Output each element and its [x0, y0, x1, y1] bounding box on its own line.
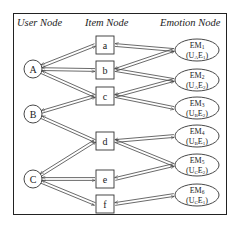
emotion-node-code: (UAE2): [186, 81, 208, 90]
user-node-A: A: [24, 60, 42, 78]
item-node-label: b: [103, 65, 108, 76]
item-node-label: e: [103, 174, 108, 185]
header-user-node: User Node: [17, 17, 63, 28]
header-item-node: Item Node: [84, 17, 129, 28]
edge-item-e-emotion-EM5-backward: [115, 164, 174, 178]
tripartite-graph: User Node Item Node Emotion Node ABCabcd…: [0, 0, 240, 234]
edge-item-c-emotion-EM3-forward: [115, 97, 174, 109]
item-node-label: d: [103, 136, 108, 147]
edge-user-A-item-c-forward: [41, 73, 95, 97]
emotion-node-EM2: EM2(UAE2): [175, 69, 219, 91]
edge-item-d-emotion-EM5-forward: [114, 142, 173, 166]
item-node-a: a: [96, 36, 114, 54]
item-node-label: a: [103, 40, 108, 51]
emotion-node-EM3: EM3(UBE2): [175, 97, 219, 119]
emotion-node-EM1: EM1(UAE1): [175, 39, 219, 61]
edge-user-C-item-f-forward: [41, 183, 94, 205]
emotion-node-code: (UBE2): [186, 109, 208, 118]
item-node-e: e: [96, 170, 114, 188]
edge-item-c-emotion-EM3-backward: [115, 95, 174, 107]
edge-item-d-emotion-EM4-forward: [115, 137, 174, 142]
nodes-layer: ABCabcdefEM1(UAE1)EM2(UAE2)EM3(UBE2)EM4(…: [24, 36, 219, 213]
emotion-node-code: (UCE2): [186, 166, 208, 175]
edge-user-B-item-c-forward: [42, 97, 95, 113]
edge-item-a-emotion-EM1-forward: [115, 46, 174, 51]
emotion-node-code: (UAE1): [186, 51, 208, 60]
user-node-B: B: [24, 105, 42, 123]
header-emotion-node: Emotion Node: [159, 17, 221, 28]
item-node-d: d: [96, 132, 114, 150]
emotion-node-EM6: EM6(UCE1): [175, 184, 219, 206]
user-node-C: C: [24, 170, 42, 188]
edge-user-B-item-d-forward: [41, 118, 95, 142]
edge-user-A-item-b-forward: [42, 71, 95, 72]
edge-item-a-emotion-EM1-backward: [115, 44, 174, 49]
edge-user-A-item-b-backward: [42, 68, 95, 69]
edge-item-b-emotion-EM2-backward: [115, 69, 174, 79]
edge-user-B-item-d-backward: [42, 116, 96, 140]
edge-item-b-emotion-EM2-forward: [115, 71, 174, 81]
edge-user-A-item-c-backward: [42, 71, 96, 95]
edge-item-b-emotion-EM1-backward: [115, 49, 174, 69]
emotion-node-EM4: EM4(UBE1): [175, 125, 219, 147]
edge-user-B-item-c-backward: [41, 95, 94, 111]
item-node-c: c: [96, 87, 114, 105]
edge-item-d-emotion-EM4-backward: [115, 135, 174, 140]
emotion-node-EM5: EM5(UCE2): [175, 154, 219, 176]
edge-item-c-emotion-EM2-forward: [115, 81, 174, 97]
user-node-label: B: [30, 109, 37, 120]
edge-item-b-emotion-EM1-forward: [115, 51, 174, 71]
user-node-label: A: [29, 64, 37, 75]
edge-user-A-item-a-backward: [41, 44, 94, 65]
edge-item-c-emotion-EM2-backward: [115, 79, 174, 95]
edge-user-C-item-f-backward: [42, 181, 95, 203]
item-node-f: f: [96, 195, 114, 213]
emotion-node-code: (UBE1): [186, 137, 208, 146]
edge-item-e-emotion-EM5-forward: [115, 166, 174, 180]
edge-user-A-item-a-forward: [42, 46, 95, 67]
item-node-b: b: [96, 61, 114, 79]
edge-user-C-item-d-forward: [42, 142, 96, 176]
emotion-node-code: (UCE1): [186, 196, 208, 205]
item-node-label: c: [103, 91, 108, 102]
edge-item-d-emotion-EM5-backward: [116, 140, 175, 164]
user-node-label: C: [30, 174, 37, 185]
edge-user-C-item-d-backward: [40, 140, 94, 174]
